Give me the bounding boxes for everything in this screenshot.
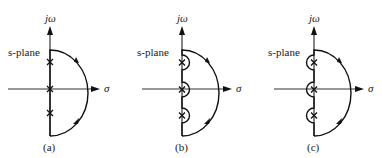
sigma-label: σ (236, 82, 242, 94)
jw-axis-arrow-icon (47, 26, 53, 35)
contour-direction-arrow-icon (204, 118, 210, 124)
nyquist-contour (182, 50, 219, 136)
contour-direction-arrow-icon (73, 118, 79, 124)
jw-label: jω (43, 12, 56, 24)
nyquist-contour (50, 50, 88, 136)
caption-b: (b) (175, 141, 188, 154)
sigma-label: σ (368, 82, 374, 94)
jw-axis-arrow-icon (311, 26, 317, 35)
sigma-axis-arrow-icon (91, 86, 100, 92)
caption-a: (a) (43, 141, 56, 154)
s-plane-label: s-plane (137, 46, 169, 58)
panel-b: jω σ s-plane (b) (137, 12, 242, 154)
jw-label: jω (175, 12, 188, 24)
jw-label: jω (307, 12, 320, 24)
panel-a: jω σ s-plane (a) (8, 12, 110, 154)
s-plane-label: s-plane (268, 46, 300, 58)
sigma-axis-arrow-icon (223, 86, 232, 92)
caption-c: (c) (307, 141, 320, 154)
panel-c: jω σ s-plane (c) (268, 12, 374, 154)
contour-direction-arrow-icon (336, 118, 342, 124)
sigma-label: σ (104, 82, 110, 94)
s-plane-label: s-plane (8, 46, 40, 58)
jw-axis-arrow-icon (179, 26, 185, 35)
nyquist-contours-figure: jω σ s-plane (a) jω σ s-plane (b) (0, 0, 382, 158)
sigma-axis-arrow-icon (355, 86, 364, 92)
